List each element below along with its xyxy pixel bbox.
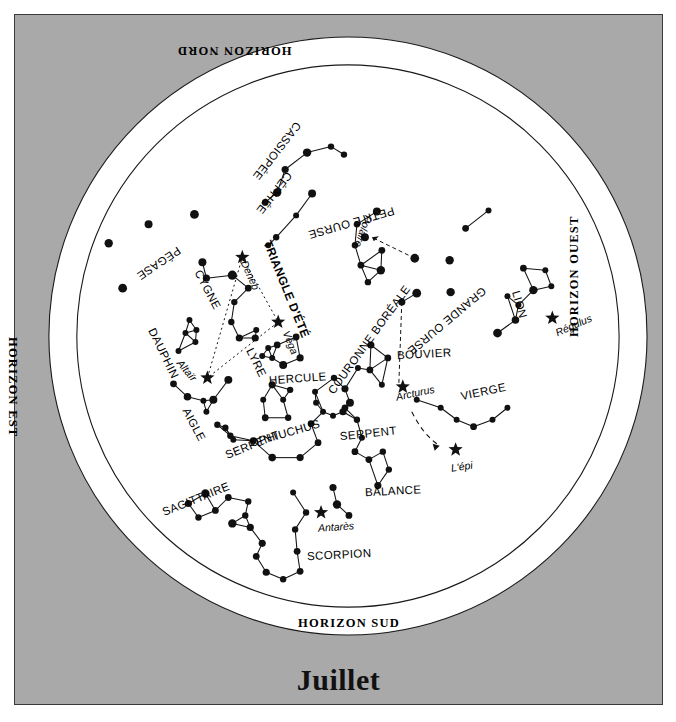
star-dot: [529, 286, 537, 294]
star-dot: [262, 414, 269, 421]
star-dot: [253, 553, 260, 560]
star-dot: [341, 385, 348, 392]
star-dot: [410, 254, 419, 263]
star-dot: [247, 524, 254, 531]
star-dot: [313, 400, 319, 406]
star-dot: [520, 265, 527, 272]
star-dot: [294, 548, 301, 555]
month-title: Juillet: [15, 663, 662, 697]
star-dot: [285, 415, 291, 421]
star-dot: [462, 225, 469, 232]
star-dot: [242, 512, 248, 518]
star-dot: [259, 540, 266, 547]
star-dot: [268, 454, 276, 462]
star-dot: [269, 381, 276, 388]
star-dot: [438, 405, 444, 411]
star-dot: [212, 507, 219, 514]
star-dot: [214, 422, 220, 428]
star-dot: [512, 316, 520, 324]
star-dot: [209, 396, 217, 404]
star-dot: [486, 207, 492, 213]
star-dot: [358, 262, 365, 269]
star-dot: [228, 319, 234, 325]
star-dot: [105, 239, 113, 247]
star-dot: [228, 271, 237, 280]
star-dot: [320, 409, 326, 415]
star-dot: [175, 348, 181, 354]
star-dot: [504, 293, 510, 299]
star-dot: [352, 242, 358, 248]
star-dot: [292, 526, 298, 532]
star-dot: [386, 466, 392, 472]
star-dot: [186, 317, 192, 323]
star-dot: [352, 448, 359, 455]
star-dot: [170, 380, 177, 387]
star-dot: [379, 382, 385, 388]
star-dot: [252, 334, 259, 341]
star-dot: [280, 397, 286, 403]
star-dot: [308, 420, 315, 427]
star-dot: [269, 355, 275, 361]
star-dot: [454, 417, 460, 423]
star-dot: [203, 275, 210, 282]
star-dot: [250, 437, 257, 444]
star-dot: [414, 397, 420, 403]
star-dot: [273, 188, 281, 196]
star-dot: [293, 212, 299, 218]
inner-sky-circle: [77, 65, 619, 607]
star-dot: [200, 398, 206, 404]
star-dot: [185, 500, 192, 507]
star-dot: [193, 327, 199, 333]
star-dot: [265, 242, 271, 248]
star-dot: [203, 409, 209, 415]
star-dot: [303, 509, 309, 515]
star-dot: [377, 266, 385, 274]
star-dot: [224, 376, 232, 384]
star-dot: [361, 233, 369, 241]
star-dot: [333, 500, 341, 508]
star-dot: [195, 514, 201, 520]
star-dot: [263, 569, 270, 576]
star-dot: [367, 367, 374, 374]
star-dot: [225, 494, 232, 501]
star-dot: [342, 404, 349, 411]
star-dot: [262, 199, 269, 206]
star-dot: [312, 389, 318, 395]
star-dot: [297, 454, 304, 461]
star-dot: [280, 576, 286, 582]
star-dot: [490, 417, 496, 423]
star-dot: [365, 279, 371, 285]
star-dot: [315, 439, 322, 446]
star-dot: [297, 568, 304, 575]
star-dot: [245, 498, 251, 504]
star-dot: [265, 345, 271, 351]
star-dot: [118, 284, 127, 293]
star-dot: [331, 375, 337, 381]
star-dot: [412, 289, 421, 298]
star-dot: [445, 256, 453, 264]
star-dot: [279, 361, 287, 369]
star-dot: [374, 482, 381, 489]
star-dot: [182, 330, 188, 336]
star-dot: [260, 397, 266, 403]
star-dot: [515, 302, 521, 308]
star-dot: [190, 210, 199, 219]
star-dot: [329, 484, 336, 491]
star-dot: [274, 342, 281, 349]
chart-plate: PÉGASECASSIOPÉECÉPHÉEPETITE OURSEGRANDE …: [14, 14, 663, 705]
star-dot: [346, 512, 353, 519]
star-dot: [366, 456, 373, 463]
star-dot: [201, 489, 209, 497]
star-dot: [222, 425, 228, 431]
star-dot: [341, 151, 347, 157]
star-dot: [373, 207, 381, 215]
star-chart-page: PÉGASECASSIOPÉECÉPHÉEPETITE OURSEGRANDE …: [0, 0, 676, 722]
star-dot: [398, 299, 405, 306]
star-dot: [367, 341, 374, 348]
star-dot: [293, 334, 300, 341]
star-dot: [227, 433, 233, 439]
star-dot: [273, 234, 279, 240]
star-dot: [253, 327, 259, 333]
star-dot: [228, 519, 236, 527]
star-dot: [236, 334, 243, 341]
